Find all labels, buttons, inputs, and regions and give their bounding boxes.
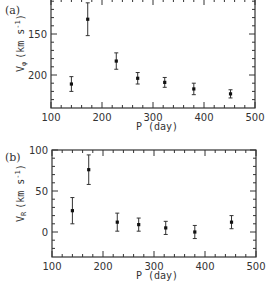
ytick-label: 0	[42, 227, 48, 238]
data-point	[230, 216, 234, 229]
y-axis-title: VR(km s-1)	[14, 164, 28, 222]
data-point	[69, 77, 73, 92]
ytick-label: 200	[28, 70, 47, 81]
data-point	[229, 90, 233, 98]
data-point	[193, 225, 197, 238]
panel-a-yticks	[51, 1, 255, 99]
data-point	[87, 155, 91, 185]
ytick-label: 150	[28, 29, 47, 40]
data-point	[164, 221, 168, 234]
panel-a-data-points	[69, 3, 232, 98]
data-point	[163, 77, 167, 87]
panel-a-frame	[51, 0, 255, 108]
data-point	[137, 218, 141, 231]
ytick-label: 100	[29, 145, 48, 156]
data-point	[114, 53, 118, 69]
x-axis-title: P (day)	[136, 270, 178, 281]
panel-b-xticks	[52, 150, 256, 257]
panel-a-xticks	[51, 0, 255, 108]
y-axis-title: Vφ(km s-1)	[14, 14, 28, 72]
panel-b: (b) 100 200 300 400 500 100 50 0 P (day)…	[5, 145, 266, 281]
x-axis-title: P (day)	[136, 121, 178, 132]
figure: (a) 100 200 300 400 500 150 200 P (day) …	[0, 0, 276, 288]
xtick-label: 200	[93, 261, 112, 272]
xtick-label: 200	[92, 112, 111, 123]
xtick-label: 500	[245, 112, 264, 123]
data-point	[70, 198, 74, 224]
data-point	[192, 83, 196, 94]
xtick-label: 100	[42, 261, 61, 272]
xtick-label: 500	[246, 261, 265, 272]
xtick-label: 400	[195, 261, 214, 272]
svg-text:VR(km s-1): VR(km s-1)	[14, 164, 28, 222]
panel-b-frame	[52, 150, 256, 257]
panel-b-data-points	[70, 155, 233, 239]
xtick-label: 100	[41, 112, 60, 123]
panel-a: (a) 100 200 300 400 500 150 200 P (day) …	[5, 0, 265, 132]
data-point	[136, 73, 140, 84]
svg-text:Vφ(km s-1): Vφ(km s-1)	[14, 14, 28, 72]
data-point	[86, 3, 90, 36]
panel-b-label: (b)	[5, 151, 21, 164]
xtick-label: 400	[194, 112, 213, 123]
ytick-label: 50	[35, 186, 48, 197]
panel-b-yticks	[52, 150, 256, 248]
data-point	[115, 213, 119, 231]
